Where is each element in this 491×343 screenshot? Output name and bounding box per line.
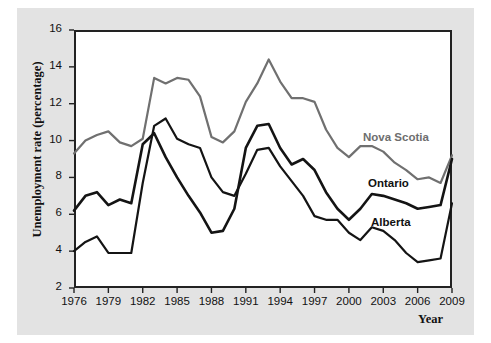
y-tick-label: 10	[36, 133, 62, 145]
series-label-nova-scotia: Nova Scotia	[363, 131, 429, 143]
y-tick-label: 14	[36, 59, 62, 71]
series-lines	[74, 59, 452, 262]
series-label-ontario: Ontario	[368, 177, 409, 189]
chart-canvas	[0, 0, 491, 343]
y-tick-label: 12	[36, 96, 62, 108]
y-tick-label: 16	[36, 22, 62, 34]
y-tick-label: 4	[36, 243, 62, 255]
series-line-nova-scotia	[74, 59, 452, 182]
x-axis-title: Year	[418, 312, 443, 327]
series-label-alberta: Alberta	[371, 216, 411, 228]
y-tick-label: 8	[36, 169, 62, 181]
y-tick-label: 2	[36, 280, 62, 292]
x-tick-label: 2009	[430, 295, 474, 307]
y-tick-label: 6	[36, 206, 62, 218]
chart-figure: Unemployment rate (percentage) Year 2468…	[0, 0, 491, 343]
